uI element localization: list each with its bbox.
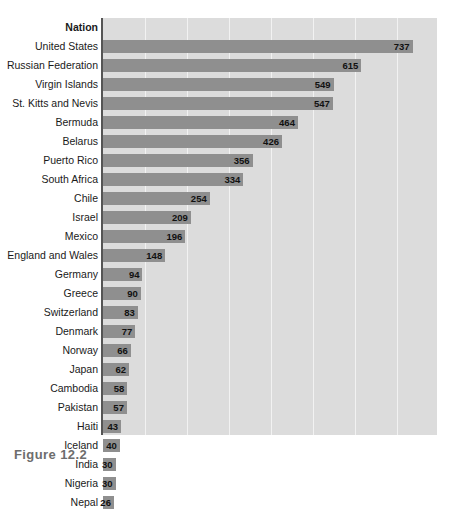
category-label: Nepal [0,493,98,512]
chart-row: Russian Federation615 [0,56,453,75]
chart-rows: United States737Russian Federation615Vir… [0,18,453,435]
bar-value-label: 90 [116,287,138,300]
bar-value-label: 83 [113,306,135,319]
chart-row: Denmark77 [0,322,453,341]
chart-row: Norway66 [0,341,453,360]
bar-value-label: 77 [110,325,132,338]
chart-row: Mexico196 [0,227,453,246]
bar-value-label: 57 [102,401,124,414]
chart-row: Greece90 [0,284,453,303]
bar-value-label: 615 [336,59,358,72]
chart-row: Germany94 [0,265,453,284]
bar-value-label: 30 [91,477,113,490]
figure-caption: Figure 12.2 [14,447,87,462]
chart-row: Switzerland83 [0,303,453,322]
category-label: Virgin Islands [0,75,98,94]
category-label: Cambodia [0,379,98,398]
chart-row: Virgin Islands549 [0,75,453,94]
chart-row: Cambodia58 [0,379,453,398]
bar-value-label: 148 [140,249,162,262]
chart-row: Israel209 [0,208,453,227]
bar-value-label: 547 [308,97,330,110]
category-label: England and Wales [0,246,98,265]
category-label: Greece [0,284,98,303]
category-label: Mexico [0,227,98,246]
chart-row: Belarus426 [0,132,453,151]
category-label: Chile [0,189,98,208]
category-label: Belarus [0,132,98,151]
bar-value-label: 356 [228,154,250,167]
bar [103,135,282,148]
bar-value-label: 737 [388,40,410,53]
bar-value-label: 254 [185,192,207,205]
bar-value-label: 334 [218,173,240,186]
bar [103,59,361,72]
category-label: Denmark [0,322,98,341]
bar [103,78,334,91]
bar-value-label: 43 [96,420,118,433]
chart-row: Nepal26 [0,493,453,512]
bar-value-label: 464 [273,116,295,129]
bar-value-label: 26 [89,496,111,509]
bar-value-label: 94 [117,268,139,281]
category-label: Germany [0,265,98,284]
bar-value-label: 549 [309,78,331,91]
category-label: St. Kitts and Nevis [0,94,98,113]
chart-row: South Africa334 [0,170,453,189]
category-label: South Africa [0,170,98,189]
category-label: Puerto Rico [0,151,98,170]
chart-row: Bermuda464 [0,113,453,132]
bar-value-label: 62 [104,363,126,376]
chart-row: Haiti43 [0,417,453,436]
bar [103,40,413,53]
bar-value-label: 209 [166,211,188,224]
chart-row: Japan62 [0,360,453,379]
category-label: Israel [0,208,98,227]
bar-value-label: 196 [160,230,182,243]
category-label: Pakistan [0,398,98,417]
category-label: Nigeria [0,474,98,493]
bar [103,97,333,110]
bar-value-label: 58 [102,382,124,395]
bar-value-label: 66 [106,344,128,357]
category-label: Haiti [0,417,98,436]
category-label: Japan [0,360,98,379]
chart-row: St. Kitts and Nevis547 [0,94,453,113]
chart-row: United States737 [0,37,453,56]
bar-value-label: 30 [91,458,113,471]
chart-row: Chile254 [0,189,453,208]
bar [103,116,298,129]
category-label: Russian Federation [0,56,98,75]
chart-row: England and Wales148 [0,246,453,265]
chart-row: Nigeria30 [0,474,453,493]
bar-value-label: 426 [257,135,279,148]
category-label: Bermuda [0,113,98,132]
category-label: Norway [0,341,98,360]
category-label: Switzerland [0,303,98,322]
bar-value-label: 40 [95,439,117,452]
chart-row: Puerto Rico356 [0,151,453,170]
category-label: United States [0,37,98,56]
chart-row: Pakistan57 [0,398,453,417]
